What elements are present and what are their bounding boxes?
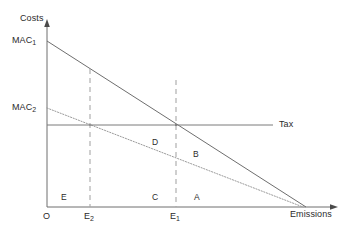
x-axis-label: Emissions <box>290 210 332 219</box>
mac1-label-text: MAC <box>12 35 32 45</box>
y-axis-label: Costs <box>20 14 44 23</box>
e2-tick-label: E2 <box>84 212 94 221</box>
mac2-tax-intersection-point <box>89 124 91 126</box>
region-label-d: D <box>152 138 158 147</box>
mac2-label-text: MAC <box>12 102 32 112</box>
mac1-label-subscript: 1 <box>32 39 36 46</box>
e1-tick-subscript: 1 <box>176 215 180 222</box>
origin-label: O <box>43 212 50 221</box>
mac2-label-subscript: 2 <box>32 106 36 113</box>
y-axis-arrowhead <box>44 19 50 27</box>
e1-tick-label: E1 <box>170 212 180 221</box>
mac1-label: MAC1 <box>12 36 36 45</box>
mac2-label: MAC2 <box>12 103 36 112</box>
mac1-tax-intersection-point <box>175 124 177 126</box>
diagram-canvas <box>0 0 360 243</box>
region-label-c: C <box>152 193 158 202</box>
e2-tick-subscript: 2 <box>90 215 94 222</box>
region-label-a: A <box>194 193 200 202</box>
economics-diagram: Costs Emissions MAC1 MAC2 Tax O E2 E1 E … <box>0 0 360 243</box>
region-label-e: E <box>61 193 67 202</box>
tax-label: Tax <box>279 120 293 129</box>
region-label-b: B <box>193 150 199 159</box>
